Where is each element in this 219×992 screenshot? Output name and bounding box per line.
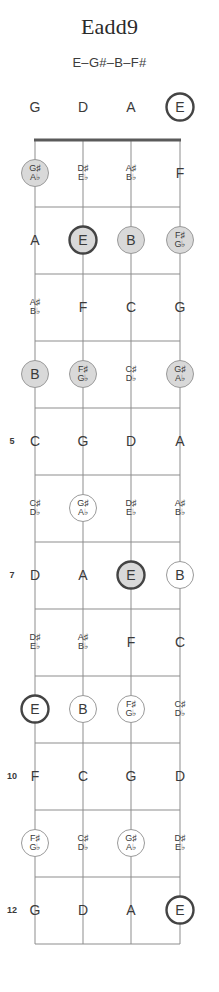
note-marker[interactable]: [118, 562, 145, 589]
note-marker[interactable]: [167, 94, 194, 121]
note-marker[interactable]: [167, 562, 194, 589]
note-marker[interactable]: [118, 830, 145, 857]
note-marker[interactable]: [70, 227, 97, 254]
note-marker[interactable]: [70, 361, 97, 388]
fretboard-diagram: [0, 0, 219, 992]
fret-number-12: 12: [7, 905, 17, 915]
fret-number-10: 10: [7, 771, 17, 781]
note-marker[interactable]: [118, 696, 145, 723]
note-marker[interactable]: [167, 897, 194, 924]
fret-number-7: 7: [9, 570, 14, 580]
fretboard-page: Eadd9 E–G#–B–F# GDAEG♯A♭D♯E♭A♯B♭FAEBF♯G♭…: [0, 0, 219, 992]
note-marker[interactable]: [22, 830, 49, 857]
note-marker[interactable]: [22, 696, 49, 723]
fret-number-5: 5: [9, 436, 14, 446]
note-marker[interactable]: [167, 361, 194, 388]
note-marker[interactable]: [22, 361, 49, 388]
note-markers-group: [22, 94, 194, 924]
note-marker[interactable]: [70, 696, 97, 723]
note-marker[interactable]: [118, 227, 145, 254]
note-marker[interactable]: [70, 495, 97, 522]
note-marker[interactable]: [22, 160, 49, 187]
frets-group: [35, 207, 180, 944]
note-marker[interactable]: [167, 227, 194, 254]
